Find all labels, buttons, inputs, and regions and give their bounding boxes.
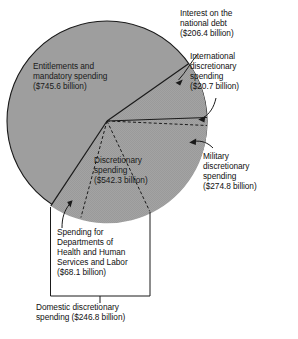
slice-label-military-discretionary: Military discretionary spending ($274.8 …: [203, 152, 298, 192]
slice-label-interest-national-debt: Interest on the national debt ($206.4 bi…: [180, 9, 296, 39]
slice-label-domestic-discretionary: Domestic discretionary spending ($246.8 …: [36, 303, 216, 323]
slice-label-discretionary: Discretionary spending ($542.3 billion): [94, 156, 194, 186]
slice-label-entitlements: Entitlements and mandatory spending ($74…: [33, 62, 143, 92]
pie-chart-figure: Entitlements and mandatory spending ($74…: [0, 0, 298, 339]
slice-label-hhs-and-labor: Spending for Departments of Health and H…: [57, 228, 179, 278]
slice-label-international-discretionary: International discretionary spending ($2…: [190, 52, 296, 92]
